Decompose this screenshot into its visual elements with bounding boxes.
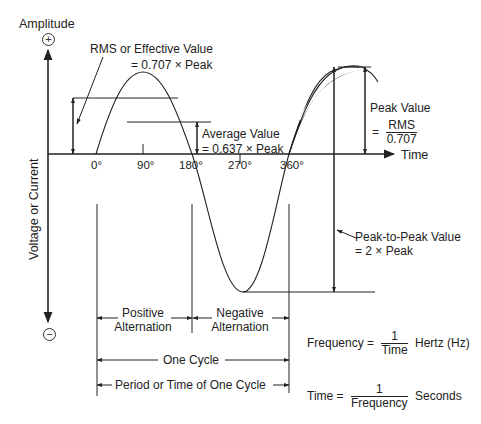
frequency-formula: Frequency = 1 Time Hertz (Hz) (307, 330, 470, 357)
p2p-formula: = 2 × Peak (355, 244, 413, 258)
positive-alternation-label: Positive Alternation (112, 306, 174, 334)
peak-title: Peak Value (370, 101, 431, 115)
amplitude-label: Amplitude (19, 17, 75, 31)
minus-sign-icon: − (43, 328, 56, 341)
time-formula: Time = 1 Frequency Seconds (307, 383, 462, 410)
tick-180: 180° (179, 158, 203, 172)
plus-sign-icon: + (42, 33, 55, 46)
p2p-leader (337, 230, 356, 238)
rms-leader (77, 57, 103, 124)
peak-denominator: 0.707 (386, 133, 417, 146)
sine-wave-diagram (0, 0, 481, 424)
tick-90: 90° (137, 158, 154, 172)
rms-title: RMS or Effective Value (90, 42, 213, 56)
one-cycle-label: One Cycle (163, 353, 219, 367)
negative-alternation-label: Negative Alternation (207, 306, 273, 334)
rms-formula: = 0.707 × Peak (131, 58, 212, 72)
tick-360: 360° (280, 158, 304, 172)
sine-wave (96, 67, 383, 292)
average-formula: = 0.637 × Peak (202, 142, 283, 156)
period-label: Period or Time of One Cycle (115, 378, 266, 392)
voltage-or-current-label: Voltage or Current (27, 159, 41, 260)
p2p-title: Peak-to-Peak Value (355, 230, 461, 244)
time-axis-label: Time (401, 148, 428, 162)
tick-0: 0° (91, 158, 102, 172)
average-title: Average Value (202, 127, 280, 141)
peak-formula: = RMS 0.707 (372, 119, 421, 146)
tick-270: 270° (228, 158, 252, 172)
peak-numerator: RMS (386, 119, 417, 133)
